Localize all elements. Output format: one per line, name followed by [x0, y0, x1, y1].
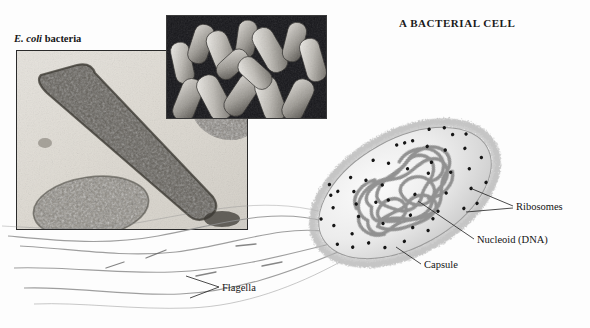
label-nucleoid: Nucleoid (DNA) [477, 234, 548, 245]
label-capsule: Capsule [424, 259, 458, 270]
flagella-group [2, 205, 340, 308]
figure-canvas: A BACTERIAL CELL E. coli bacteria [0, 0, 590, 328]
label-ribosomes: Ribosomes [516, 201, 563, 212]
label-flagella: Flagella [222, 282, 256, 293]
bacterial-cell-diagram [0, 0, 590, 328]
